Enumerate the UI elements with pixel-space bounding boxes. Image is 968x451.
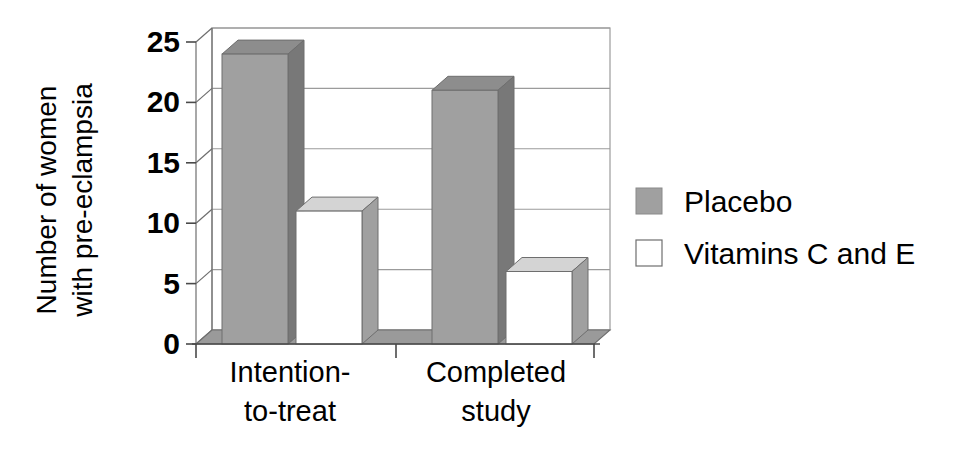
- y-axis-title-line2: with pre-eclampsia: [67, 83, 98, 318]
- left-side-wall: [196, 28, 212, 344]
- bar-front-face: [432, 90, 498, 344]
- legend: Placebo Vitamins C and E: [636, 185, 915, 270]
- bar-vitamins-intention-to-treat: [296, 197, 378, 344]
- bar-front-face: [296, 211, 362, 344]
- x-category-1-line2: to-treat: [244, 395, 336, 427]
- x-category-2-line1: Completed: [426, 356, 566, 388]
- chart-figure: 25 20 15 10 5 0 Number of women with pre…: [0, 0, 968, 451]
- legend-swatch-vitamins: [636, 240, 662, 266]
- depth-line-20: [196, 88, 212, 102]
- legend-label-vitamins: Vitamins C and E: [684, 237, 915, 270]
- depth-line-10: [196, 209, 212, 223]
- bar-front-face: [506, 272, 572, 345]
- x-category-2-line2: study: [461, 395, 531, 427]
- legend-item-placebo[interactable]: Placebo: [636, 185, 792, 218]
- y-tick-label-25: 25: [147, 25, 180, 58]
- y-tick-label-10: 10: [147, 206, 180, 239]
- y-tick-label-20: 20: [147, 85, 180, 118]
- y-tick-label-15: 15: [147, 146, 180, 179]
- depth-line-25: [196, 28, 212, 42]
- legend-label-placebo: Placebo: [684, 185, 792, 218]
- bar-chart: 25 20 15 10 5 0 Number of women with pre…: [0, 0, 968, 451]
- y-axis-title-line1: Number of women: [31, 86, 62, 315]
- bar-side-face: [362, 197, 378, 344]
- legend-swatch-placebo: [636, 188, 662, 214]
- y-tick-label-5: 5: [163, 267, 180, 300]
- depth-line-5: [196, 270, 212, 284]
- bar-placebo-intention-to-treat: [222, 40, 304, 344]
- bar-vitamins-completed-study: [506, 258, 588, 345]
- x-category-labels: Intention- to-treat Completed study: [230, 356, 567, 427]
- y-tick-marks: [186, 42, 196, 344]
- legend-item-vitamins[interactable]: Vitamins C and E: [636, 237, 915, 270]
- y-axis-title: Number of women with pre-eclampsia: [31, 83, 98, 318]
- x-category-1-line1: Intention-: [230, 356, 351, 388]
- y-tick-label-0: 0: [163, 327, 180, 360]
- bar-front-face: [222, 54, 288, 344]
- depth-line-15: [196, 149, 212, 163]
- bar-side-face: [572, 258, 588, 345]
- y-tick-labels: 25 20 15 10 5 0: [147, 25, 180, 360]
- bar-placebo-completed-study: [432, 76, 514, 344]
